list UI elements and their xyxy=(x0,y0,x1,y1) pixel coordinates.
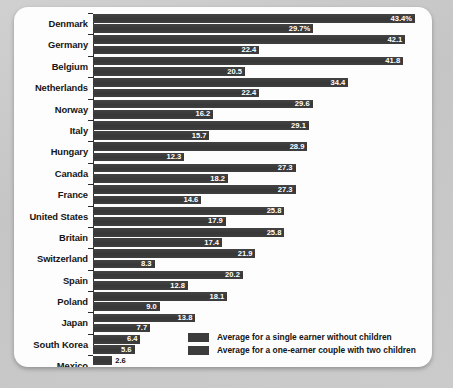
bar-value-label: 20.2 xyxy=(225,271,243,279)
bar-value-label: 29.1 xyxy=(291,122,309,130)
bars-container: 13.87.7 xyxy=(93,312,432,333)
legend-item: Average for a one-earner couple with two… xyxy=(188,346,416,355)
bar-single-earner: 42.1 xyxy=(93,35,405,44)
bar-value-label: 21.9 xyxy=(238,250,256,258)
chart-row: Belgium41.820.5 xyxy=(14,56,432,77)
bar-value-label: 9.0 xyxy=(146,303,160,311)
bar-single-earner: 25.8 xyxy=(93,207,284,216)
bars-container: 25.817.4 xyxy=(93,227,432,248)
bar-couple-two-children: 16.2 xyxy=(93,110,213,119)
category-label: Spain xyxy=(14,276,93,285)
bar-value-label: 18.1 xyxy=(210,293,228,301)
bar-single-earner: 27.3 xyxy=(93,164,296,173)
bar-value-label: 20.5 xyxy=(227,68,245,76)
legend-swatch xyxy=(188,333,209,342)
category-label: Mexico xyxy=(14,361,93,367)
bars-container: 34.422.4 xyxy=(93,77,432,98)
bars-container: 20.212.8 xyxy=(93,270,432,291)
chart-row: Japan13.87.7 xyxy=(14,312,432,333)
bar-value-label: 18.2 xyxy=(210,175,228,183)
bars-container: 21.98.3 xyxy=(93,248,432,269)
bar-value-label: 5.6 xyxy=(121,346,135,354)
category-label: Italy xyxy=(14,126,93,135)
bar-value-label: 7.7 xyxy=(137,324,151,332)
bar-value-label: 6.4 xyxy=(127,335,141,343)
bar-value-label: 17.9 xyxy=(208,217,226,225)
chart-legend: Average for a single earner without chil… xyxy=(188,333,416,355)
chart-row: Mexico2.62.6 xyxy=(14,355,432,367)
bar-couple-two-children: 20.5 xyxy=(93,67,245,76)
bar-value-label: 29.6 xyxy=(295,100,313,108)
bar-single-earner: 41.8 xyxy=(93,57,403,66)
bar-couple-two-children: 8.3 xyxy=(93,260,155,269)
bar-value-label: 25.8 xyxy=(267,229,285,237)
bar-single-earner: 2.6 xyxy=(93,356,112,365)
bar-single-earner: 20.2 xyxy=(93,271,243,280)
bar-value-label: 17.4 xyxy=(204,239,222,247)
bar-single-earner: 21.9 xyxy=(93,249,255,258)
bar-couple-two-children: 17.4 xyxy=(93,238,222,247)
chart-row: Netherlands34.422.4 xyxy=(14,77,432,98)
chart-row: United States25.817.9 xyxy=(14,206,432,227)
bar-couple-two-children: 29.7% xyxy=(93,24,313,33)
category-label: Netherlands xyxy=(14,83,93,92)
bar-single-earner: 13.8 xyxy=(93,314,195,323)
bar-value-label: 29.7% xyxy=(289,25,314,33)
legend-swatch xyxy=(188,346,209,355)
bar-single-earner: 18.1 xyxy=(93,292,227,301)
category-label: Japan xyxy=(14,318,93,327)
bars-container: 25.817.9 xyxy=(93,206,432,227)
bar-value-label: 16.2 xyxy=(195,110,213,118)
bar-value-label: 42.1 xyxy=(388,36,406,44)
bars-container: 43.4%29.7% xyxy=(93,13,432,34)
chart-row: Hungary28.912.3 xyxy=(14,141,432,162)
category-label: Switzerland xyxy=(14,254,93,263)
chart-row: Denmark43.4%29.7% xyxy=(14,13,432,34)
bar-single-earner: 28.9 xyxy=(93,142,307,151)
bar-value-label: 13.8 xyxy=(178,314,196,322)
bars-container: 28.912.3 xyxy=(93,141,432,162)
category-label: Denmark xyxy=(14,19,93,28)
chart-row: Italy29.115.7 xyxy=(14,120,432,141)
category-label: Hungary xyxy=(14,147,93,156)
bar-couple-two-children: 18.2 xyxy=(93,174,228,183)
category-label: Norway xyxy=(14,105,93,114)
legend-item: Average for a single earner without chil… xyxy=(188,333,416,342)
chart-card: Denmark43.4%29.7%Germany42.122.4Belgium4… xyxy=(14,7,432,367)
category-label: France xyxy=(14,190,93,199)
bar-couple-two-children: 7.7 xyxy=(93,324,150,333)
chart-row: Canada27.318.2 xyxy=(14,163,432,184)
bar-single-earner: 34.4 xyxy=(93,78,348,87)
bar-couple-two-children: 9.0 xyxy=(93,302,160,311)
bar-single-earner: 29.1 xyxy=(93,121,309,130)
bar-value-label: 28.9 xyxy=(290,143,308,151)
bar-value-label: 14.6 xyxy=(184,196,202,204)
bar-value-label: 27.3 xyxy=(278,164,296,172)
legend-label: Average for a single earner without chil… xyxy=(217,333,392,341)
bars-container: 27.318.2 xyxy=(93,163,432,184)
bars-container: 29.616.2 xyxy=(93,99,432,120)
chart-row: France27.314.6 xyxy=(14,184,432,205)
bar-value-label: 15.7 xyxy=(192,132,210,140)
chart-row: Poland18.19.0 xyxy=(14,291,432,312)
bar-value-label: 22.4 xyxy=(241,46,259,54)
bar-value-label: 12.3 xyxy=(166,153,184,161)
bar-value-label: 27.3 xyxy=(278,186,296,194)
bar-couple-two-children: 17.9 xyxy=(93,217,226,226)
bar-single-earner: 43.4% xyxy=(93,14,415,23)
bar-couple-two-children: 12.3 xyxy=(93,153,184,162)
bar-single-earner: 29.6 xyxy=(93,100,313,109)
bar-value-label: 25.8 xyxy=(267,207,285,215)
category-label: Poland xyxy=(14,297,93,306)
bar-value-label: 2.6 xyxy=(112,357,126,365)
bars-container: 42.122.4 xyxy=(93,34,432,55)
bars-container: 29.115.7 xyxy=(93,120,432,141)
category-label: Britain xyxy=(14,233,93,242)
bar-single-earner: 6.4 xyxy=(93,335,140,344)
chart-row: Switzerland21.98.3 xyxy=(14,248,432,269)
bar-chart: Denmark43.4%29.7%Germany42.122.4Belgium4… xyxy=(14,7,432,367)
bar-couple-two-children: 5.6 xyxy=(93,345,135,354)
category-label: South Korea xyxy=(14,340,93,349)
bar-single-earner: 25.8 xyxy=(93,228,284,237)
bar-value-label: 22.4 xyxy=(241,89,259,97)
